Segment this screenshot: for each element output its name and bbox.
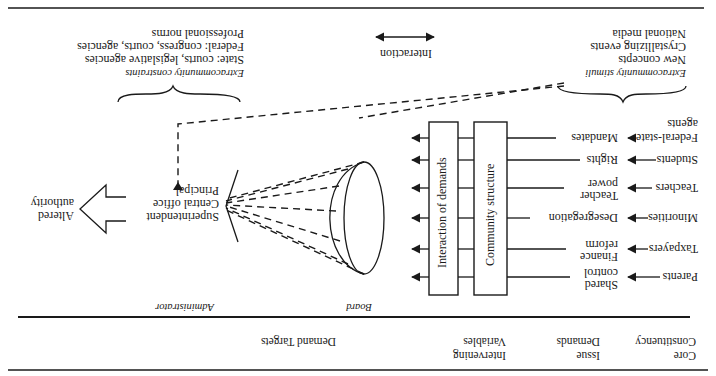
constituency-teachers: Teachers <box>655 181 698 195</box>
extracommunity-constraints: Extracommunity constraints State: courts… <box>77 27 245 79</box>
constituency-agents: agents <box>667 117 698 131</box>
dashed-rays <box>226 162 364 274</box>
extracommunity-stimuli: Extracommunity stimuli New concepts Crys… <box>585 27 687 79</box>
constituency-taxpayers: Taxpayers <box>649 242 698 256</box>
board-shape: Board <box>330 162 384 313</box>
box-connectors <box>458 138 474 277</box>
header-issue-demands-2: Demands <box>556 336 600 348</box>
stimuli-item: National media <box>612 27 686 41</box>
interaction-of-demands-label: Interaction of demands <box>435 157 449 268</box>
column-headers: Core Constituency Issue Demands Interven… <box>260 335 696 362</box>
issue-control: control <box>583 266 618 280</box>
outcome-altered: Altered <box>38 209 74 223</box>
stimuli-item: Crystallizing events <box>590 40 686 54</box>
issue-rights: Rights <box>586 153 618 167</box>
issue-list: Shared control Finance reform Desegregat… <box>507 131 618 292</box>
demand-flow-diagram: Core Constituency Issue Demands Interven… <box>0 0 716 376</box>
stimuli-item: New concepts <box>618 53 686 67</box>
header-intervening-variables-2: Variables <box>463 336 506 348</box>
header-demand-targets: Demand Targets <box>260 335 336 348</box>
issue-desegregation: Desegregation <box>549 211 618 225</box>
outcome-authority: authority <box>31 196 74 210</box>
board-label: Board <box>345 302 372 313</box>
stimuli-brace <box>558 86 686 102</box>
role-superintendent: Superintendent <box>146 210 219 224</box>
administrator-roles: Superintendent Central office Principal … <box>146 184 219 313</box>
community-structure-label: Community structure <box>483 164 497 266</box>
issue-mandates: Mandates <box>571 131 618 145</box>
constraints-item: Professional norms <box>151 27 244 41</box>
issue-teacher: Teacher <box>580 189 618 203</box>
constraints-brace <box>118 86 240 102</box>
issue-power: power <box>588 177 618 191</box>
constituency-parents: Parents <box>662 270 698 284</box>
stimuli-title: Extracommunity stimuli <box>585 68 687 79</box>
header-core-constituency-1: Core <box>674 350 696 362</box>
header-core-constituency-2: Constituency <box>635 335 696 348</box>
constraints-item: Federal: congress, courts, agencies <box>77 40 244 54</box>
issue-finance: Finance <box>580 250 618 264</box>
constituency-list: Parents Taxpayers Minorities Teachers St… <box>628 117 698 284</box>
stimuli-to-board-line <box>359 83 564 118</box>
constituency-minorities: Minorities <box>648 211 698 225</box>
constituency-federal-state: Federal-state <box>636 131 698 145</box>
header-intervening-variables-1: Intervening <box>453 349 506 362</box>
interaction-legend-label: Interaction <box>380 47 432 61</box>
role-principal: Principal <box>175 184 219 198</box>
outcome-arrow-icon <box>80 185 126 233</box>
demand-arrows <box>412 138 429 277</box>
issue-shared: Shared <box>585 278 618 292</box>
issue-reform: reform <box>585 238 618 252</box>
constraints-title: Extracommunity constraints <box>125 68 245 79</box>
header-issue-demands-1: Issue <box>576 350 600 362</box>
role-central-office: Central office <box>153 197 219 211</box>
administrator-label: Administrator <box>154 302 215 313</box>
constraints-item: State: courts, legislative agencies <box>84 53 244 67</box>
constituency-students: Students <box>656 153 698 167</box>
